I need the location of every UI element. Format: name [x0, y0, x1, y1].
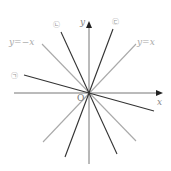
label-line-a: ㉠	[11, 72, 18, 80]
y-axis-label: y	[79, 17, 86, 27]
y-axis-arrow-icon	[86, 21, 92, 28]
coordinate-diagram: y x O y=−x y=x ㉠ ㉡ ㉢	[0, 0, 171, 171]
x-axis-label: x	[157, 97, 162, 107]
label-y-equals-x: y=x	[136, 37, 155, 47]
label-line-b: ㉡	[53, 21, 60, 29]
label-y-equals-neg-x: y=−x	[8, 37, 34, 47]
x-axis-arrow-icon	[156, 90, 163, 96]
origin-label: O	[77, 93, 84, 103]
label-line-c: ㉢	[112, 18, 119, 26]
